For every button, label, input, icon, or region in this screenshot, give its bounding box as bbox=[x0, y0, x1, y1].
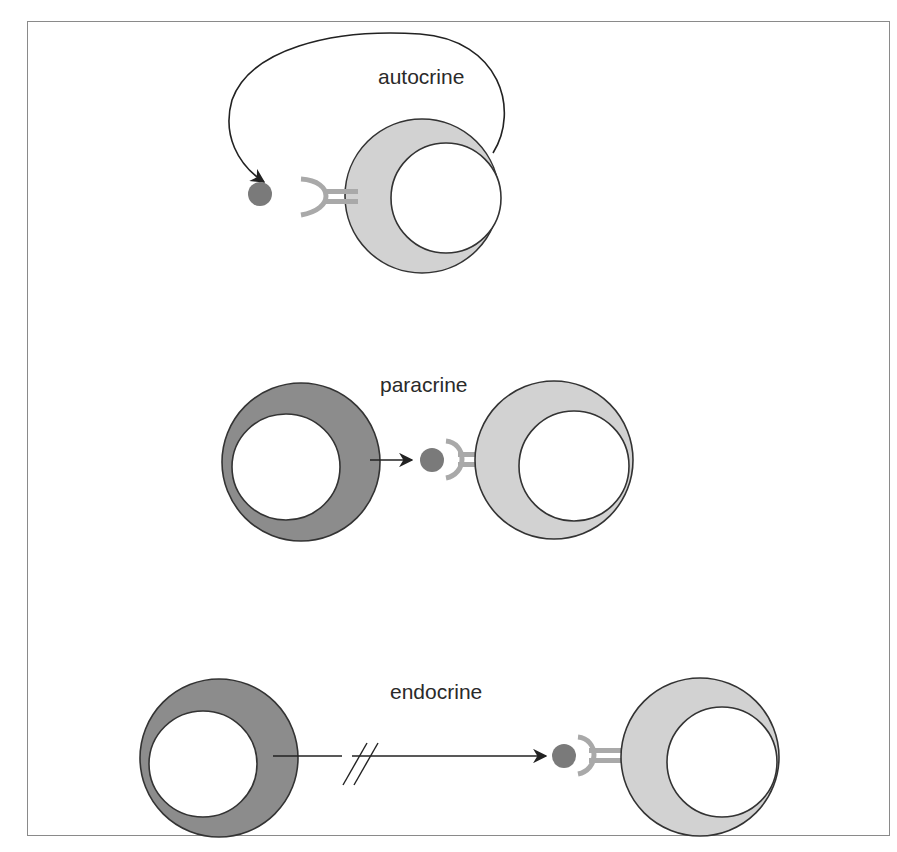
paracrine-label: paracrine bbox=[380, 373, 468, 397]
endocrine-long-arrow-icon bbox=[273, 744, 546, 768]
paracrine-target-cell bbox=[475, 381, 633, 539]
autocrine-cell bbox=[345, 119, 501, 273]
autocrine-ligand-dot-icon bbox=[248, 182, 272, 206]
paracrine-ligand-dot-icon bbox=[420, 448, 444, 472]
endocrine-secreting-cell bbox=[140, 679, 298, 837]
paracrine-secreting-cell bbox=[222, 383, 380, 541]
endocrine-label: endocrine bbox=[390, 680, 482, 704]
figure-canvas: autocrine paracrine endocrine bbox=[0, 0, 897, 852]
endocrine-receptor-icon bbox=[578, 737, 622, 774]
endocrine-ligand-dot-icon bbox=[552, 744, 576, 768]
autocrine-label: autocrine bbox=[378, 65, 464, 89]
signaling-diagram bbox=[0, 0, 897, 852]
paracrine-panel bbox=[222, 381, 633, 541]
endocrine-target-cell bbox=[621, 678, 779, 836]
